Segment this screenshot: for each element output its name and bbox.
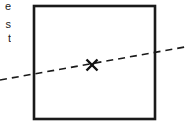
figure-canvas: e s t	[0, 0, 185, 125]
clipped-text-line-3: t	[0, 33, 11, 44]
clipped-text-line-2: s	[0, 19, 11, 30]
clipped-text-line-1: e	[0, 1, 11, 12]
figure-drawing	[0, 0, 185, 125]
